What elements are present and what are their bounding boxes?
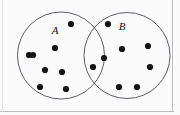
element-dot <box>52 45 58 51</box>
frame-bottom-border <box>0 111 174 112</box>
element-dot <box>42 67 48 73</box>
element-dot <box>105 21 111 27</box>
set-label-b: B <box>119 20 126 32</box>
element-dot <box>30 52 36 58</box>
frame-right-border <box>172 0 173 112</box>
element-dot <box>63 86 69 92</box>
figure-background <box>0 0 180 115</box>
element-dot <box>68 21 74 27</box>
element-dot <box>90 64 96 70</box>
element-dot <box>119 46 125 52</box>
venn-diagram-canvas: AB <box>0 0 180 115</box>
element-dot <box>101 55 107 61</box>
element-dot <box>147 64 153 70</box>
element-dot <box>59 69 65 75</box>
frame-left-border <box>2 0 3 112</box>
element-dot <box>116 84 122 90</box>
element-dot <box>145 43 151 49</box>
element-dot <box>37 84 43 90</box>
element-dot <box>134 84 140 90</box>
venn-diagram-figure: AB <box>0 0 180 115</box>
set-label-a: A <box>51 24 59 36</box>
